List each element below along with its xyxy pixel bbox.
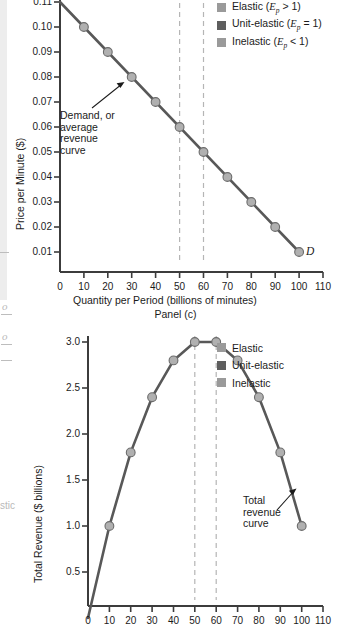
legend-label-unit-elastic: Unit-elastic (Ep = 1)	[232, 17, 322, 32]
revenue-legend-row-elastic: Elastic	[217, 340, 284, 355]
revenue-annotation: Total revenue curve	[243, 495, 281, 530]
legend-swatch-elastic	[217, 3, 226, 12]
revenue-legend-label-unit-elastic: Unit-elastic	[232, 359, 284, 371]
legend-row-unit-elastic: Unit-elastic (Ep = 1)	[217, 18, 322, 33]
revenue-legend-row-unit-elastic: Unit-elastic	[217, 358, 284, 373]
legend-row-inelastic: Inelastic (Ep < 1)	[217, 35, 322, 50]
legend-cond-elastic: > 1)	[280, 0, 301, 12]
demand-annotation: Demand, or average revenue curve	[60, 110, 115, 156]
legend-text-unit-elastic: Unit-elastic	[232, 17, 284, 29]
demand-x-axis-title: Quantity per Period (billions of minutes…	[73, 294, 257, 306]
revenue-panel: Total Revenue ($ billions) 3.0 2.5 2.0 1…	[0, 328, 351, 636]
legend-cond-inelastic: < 1)	[287, 35, 308, 47]
demand-legend: Elastic (Ep > 1) Unit-elastic (Ep = 1) I…	[217, 0, 322, 53]
demand-panel: Price per Minute ($) 0.11 0.10 0.09 0.08…	[0, 0, 351, 300]
legend-swatch-inelastic	[217, 38, 226, 47]
legend-text-elastic: Elastic	[232, 0, 263, 12]
revenue-annotation-line-0: Total	[243, 495, 281, 507]
revenue-legend-label-elastic: Elastic	[232, 342, 263, 354]
revenue-xtick-11: 110	[309, 615, 337, 626]
revenue-legend-swatch-elastic	[217, 343, 226, 352]
revenue-legend-swatch-unit-elastic	[217, 361, 226, 370]
legend-row-elastic: Elastic (Ep > 1)	[217, 0, 322, 15]
demand-annotation-line-0: Demand, or	[60, 110, 115, 122]
revenue-annotation-line-2: curve	[243, 518, 281, 530]
demand-curve-label: D	[306, 245, 314, 257]
legend-label-inelastic: Inelastic (Ep < 1)	[232, 35, 308, 50]
panel-c-label: Panel (c)	[0, 308, 351, 320]
legend-cond-unit: = 1)	[301, 17, 322, 29]
legend-label-elastic: Elastic (Ep > 1)	[232, 0, 301, 15]
revenue-legend: Elastic Unit-elastic Inelastic	[217, 340, 284, 393]
revenue-legend-row-inelastic: Inelastic	[217, 375, 284, 390]
legend-swatch-unit-elastic	[217, 21, 226, 30]
revenue-plot-svg	[0, 328, 351, 636]
demand-annotation-line-3: curve	[60, 145, 115, 157]
revenue-legend-swatch-inelastic	[217, 378, 226, 387]
revenue-legend-label-inelastic: Inelastic	[232, 377, 271, 389]
legend-text-inelastic: Inelastic	[232, 35, 271, 47]
demand-xtick-11: 110	[309, 281, 337, 292]
